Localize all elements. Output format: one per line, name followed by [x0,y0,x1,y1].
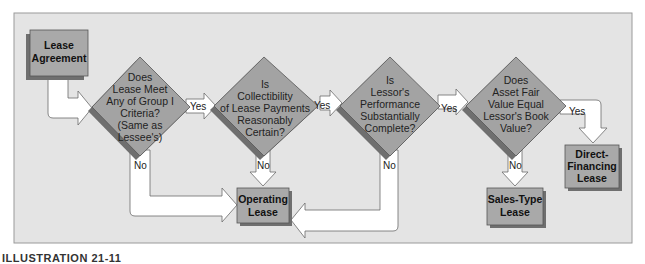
decision3-line3: Performance [360,98,420,110]
decision4-line5: Value? [500,122,532,134]
edge-label-decision3-yes: Yes [441,103,457,114]
edge-label-decision2-no: No [257,160,270,171]
operating-lease-line2: Lease [248,206,278,218]
decision1-line2: Lease Meet [113,83,168,95]
decision3-line1: Is [386,74,394,86]
decision4-line4: Lessor's Book [483,110,549,122]
edge-label-decision3-no: No [383,160,396,171]
outcome-operating-lease: Operating Lease [237,188,292,226]
decision2-line2: Collectibility [237,90,293,102]
direct-financing-line1: Direct- [575,148,609,160]
operating-lease-line1: Operating [238,193,288,205]
outcome-direct-financing-lease: Direct- Financing Lease [565,145,622,191]
decision2-line1: Is [261,78,269,90]
start-node-label-line1: Lease [44,39,74,51]
decision3-line5: Complete? [365,122,416,134]
edge-label-decision1-yes: Yes [190,101,206,112]
edge-label-decision4-yes: Yes [569,106,585,117]
decision2-line5: Certain? [245,126,285,138]
decision4-line1: Does [504,74,529,86]
edge-label-decision1-no: No [134,160,147,171]
decision4-line2: Asset Fair [492,86,540,98]
edge-label-decision4-no: No [509,160,522,171]
sales-type-lease-line1: Sales-Type [488,193,543,205]
start-node-lease-agreement: Lease Agreement [26,30,88,80]
decision1-line1: Does [128,71,153,83]
direct-financing-line2: Financing [567,160,617,172]
decision1-line5: (Same as [118,119,163,131]
decision3-line4: Substantially [360,110,420,122]
decision1-line3: Any of Group I [106,95,174,107]
decision1-line4: Criteria? [120,107,160,119]
decision2-line3: of Lease Payments [220,102,310,114]
outcome-sales-type-lease: Sales-Type Lease [487,188,546,228]
figure-caption: ILLUSTRATION 21-11 [2,252,121,264]
sales-type-lease-line2: Lease [500,206,530,218]
decision3-line2: Lessor's [371,86,410,98]
decision1-line6: Lessee's) [118,131,163,143]
decision2-line4: Reasonably [237,114,293,126]
edge-label-decision2-yes: Yes [314,100,330,111]
direct-financing-line3: Lease [577,172,607,184]
decision4-line3: Value Equal [488,98,544,110]
start-node-label-line2: Agreement [32,52,87,64]
